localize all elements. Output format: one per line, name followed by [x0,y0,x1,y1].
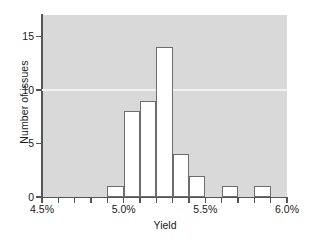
histogram-bar [222,186,238,197]
histogram-figure: 051015 4.5%5.0%5.5%6.0% Number of issues… [0,0,311,242]
histogram-bar [124,111,140,197]
histogram-bar [173,154,189,197]
x-axis-title: Yield [42,219,288,231]
x-tick-label-4.5%: 4.5% [12,203,72,215]
x-tick-5.8 [254,198,256,203]
y-tick-5 [36,143,41,145]
x-tick-5.2 [156,198,158,203]
x-tick-4.8 [90,198,92,203]
histogram-bar [254,186,270,197]
y-axis-line [41,14,43,198]
y-tick-label-0: 0 [0,191,34,203]
x-tick-5.3 [172,198,174,203]
x-tick-label-6.0%: 6.0% [257,203,311,215]
y-tick-0 [36,196,41,198]
y-axis-title: Number of issues [18,22,30,182]
x-tick-5.7 [237,198,239,203]
histogram-bar [140,101,156,197]
y-tick-10 [36,89,41,91]
x-tick-label-5.0%: 5.0% [94,203,154,215]
histogram-bar [107,186,123,197]
y-tick-15 [36,36,41,38]
histogram-bar [189,176,205,197]
x-tick-4.7 [74,198,76,203]
histogram-bar [156,47,172,197]
x-tick-label-5.5%: 5.5% [175,203,235,215]
